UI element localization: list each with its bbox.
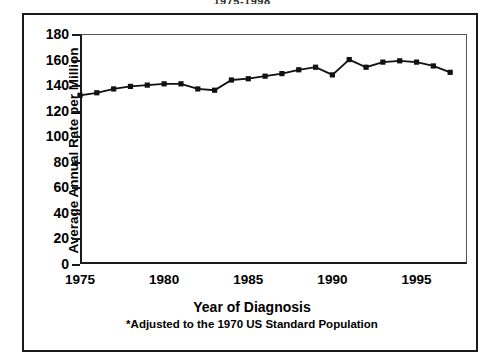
y-tick-mark <box>72 60 80 62</box>
y-tick-label: 100 <box>46 128 69 144</box>
data-point-marker <box>262 74 267 79</box>
y-tick-mark <box>72 238 80 240</box>
data-point-marker <box>77 93 82 98</box>
x-tick-label: 1995 <box>401 272 431 287</box>
data-point-marker <box>414 60 419 65</box>
data-point-marker <box>128 84 133 89</box>
data-point-marker <box>111 86 116 91</box>
y-tick-label: 60 <box>53 179 69 195</box>
line-series <box>80 34 467 264</box>
data-point-marker <box>279 71 284 76</box>
y-tick-mark <box>72 162 80 164</box>
y-tick-label: 180 <box>46 26 69 42</box>
figure-super-title: 1975-1998 <box>0 0 484 4</box>
data-point-marker <box>363 65 368 70</box>
data-point-marker <box>397 58 402 63</box>
plot-area: 020406080100120140160180 197519801985199… <box>80 34 467 264</box>
data-point-marker <box>431 63 436 68</box>
data-point-marker <box>313 65 318 70</box>
y-tick-mark <box>72 213 80 215</box>
data-point-marker <box>448 70 453 75</box>
data-point-marker <box>246 76 251 81</box>
x-tick-label: 1985 <box>233 272 263 287</box>
data-point-marker <box>380 60 385 65</box>
data-point-marker <box>296 67 301 72</box>
y-tick-mark <box>72 136 80 138</box>
y-tick-label: 140 <box>46 77 69 93</box>
y-tick-label: 40 <box>53 205 69 221</box>
data-point-marker <box>178 81 183 86</box>
x-tick-label: 1990 <box>317 272 347 287</box>
y-tick-label: 80 <box>53 154 69 170</box>
y-tick-mark <box>72 187 80 189</box>
y-tick-mark <box>72 85 80 87</box>
y-tick-mark <box>72 111 80 113</box>
data-point-marker <box>229 77 234 82</box>
y-tick-label: 0 <box>61 256 69 272</box>
data-point-marker <box>162 81 167 86</box>
y-tick-mark <box>72 264 80 266</box>
x-tick-label: 1975 <box>65 272 95 287</box>
y-tick-mark <box>72 34 80 36</box>
y-tick-label: 120 <box>46 103 69 119</box>
x-tick-label: 1980 <box>149 272 179 287</box>
data-point-marker <box>195 86 200 91</box>
chart-frame: Average Annual Rate per Million 02040608… <box>22 13 478 352</box>
data-point-marker <box>347 57 352 62</box>
data-point-marker <box>145 83 150 88</box>
x-axis-title: Year of Diagnosis <box>24 299 480 315</box>
data-point-marker <box>330 72 335 77</box>
figure-root: 1975-1998 Average Annual Rate per Millio… <box>0 0 484 364</box>
y-tick-label: 160 <box>46 52 69 68</box>
data-point-marker <box>212 88 217 93</box>
data-point-marker <box>94 90 99 95</box>
figure-footnote: *Adjusted to the 1970 US Standard Popula… <box>24 318 480 330</box>
y-tick-label: 20 <box>53 230 69 246</box>
